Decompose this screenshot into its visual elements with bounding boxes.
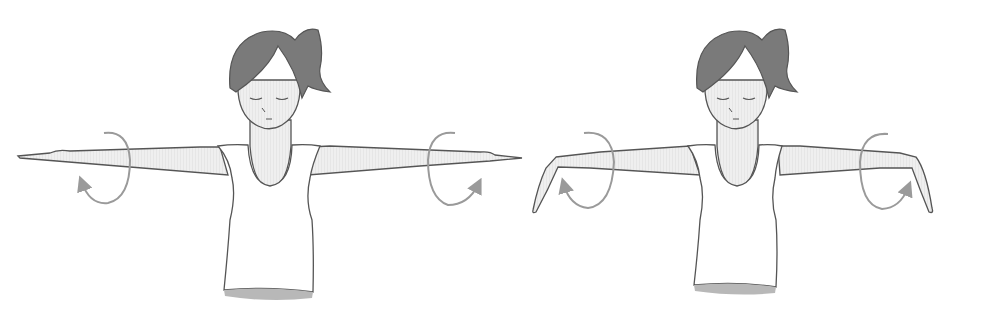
left-arm	[533, 146, 700, 213]
figure-2-wrists-flexed	[533, 29, 933, 294]
rotation-arrow-left-icon	[564, 133, 614, 208]
rotation-arrow-right-icon	[428, 133, 478, 205]
right-arm	[308, 146, 522, 175]
right-arm	[778, 146, 933, 213]
rotation-arrow-right-icon	[860, 134, 908, 209]
left-arm	[18, 147, 228, 175]
figure-1-arms-flat	[18, 29, 522, 300]
exercise-illustration	[0, 0, 987, 313]
rotation-arrow-left-icon	[82, 133, 130, 203]
